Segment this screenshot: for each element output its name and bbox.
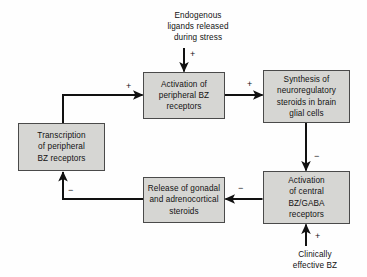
node-release-gonadal-label: Release of gonadal and adrenocortical st… [148,183,220,217]
edge-sign-central-to-release: − [238,184,243,193]
node-transcription-peripheral-bz-receptors[interactable]: Transcription of peripheral BZ receptors [18,123,105,171]
label-clinically-effective-bz: Clinically effective BZ [268,249,362,271]
label-endogenous-ligands-released-during-stress: Endogenous ligands released during stres… [140,10,256,44]
node-synthesis-steroids-label: Synthesis of neuroregulatory steroids in… [277,74,337,119]
node-activation-peripheral-bz-receptors[interactable]: Activation of peripheral BZ receptors [143,72,225,119]
node-release-gonadal-adrenocortical-steroids[interactable]: Release of gonadal and adrenocortical st… [143,177,225,223]
diagram-canvas: Activation of peripheral BZ receptors Sy… [0,0,367,277]
edge-sign-transcription-to-peripheral: + [126,82,131,91]
edge-release-to-transcription [63,172,143,199]
edge-sign-endogenous-to-peripheral: + [190,50,195,59]
node-activation-central-label: Activation of central BZ/GABA receptors [288,175,325,220]
node-synthesis-neuroregulatory-steroids[interactable]: Synthesis of neuroregulatory steroids in… [263,70,350,123]
edge-sign-release-to-transcription: − [68,186,73,195]
node-activation-peripheral-label: Activation of peripheral BZ receptors [159,79,209,113]
edge-transcription-to-peripheral [63,95,143,123]
edge-sign-peripheral-to-synthesis: + [247,80,252,89]
node-activation-central-bz-gaba-receptors[interactable]: Activation of central BZ/GABA receptors [263,171,350,224]
node-transcription-label: Transcription of peripheral BZ receptors [37,130,85,164]
edge-sign-clinically-to-central: + [315,232,320,241]
edge-sign-synthesis-to-central: − [314,152,319,161]
